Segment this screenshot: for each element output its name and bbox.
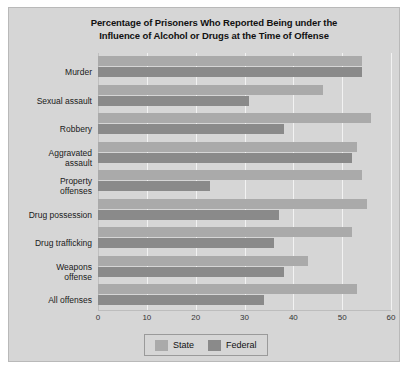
category-label: Drug possession — [6, 210, 92, 220]
category-label: Aggravated assault — [6, 148, 92, 168]
plot-area: MurderSexual assaultRobberyAggravated as… — [98, 53, 391, 310]
category-row: Murder — [98, 56, 391, 82]
category-row: Aggravated assault — [98, 142, 391, 168]
bar-federal — [98, 181, 210, 191]
bar-federal — [98, 210, 279, 220]
category-row: All offenses — [98, 284, 391, 310]
x-tick-label-20: 20 — [191, 313, 200, 322]
chart-title: Percentage of Prisoners Who Reported Bei… — [69, 16, 359, 42]
x-tick-label-40: 40 — [289, 313, 298, 322]
category-label: Murder — [6, 67, 92, 77]
category-row: Drug possession — [98, 199, 391, 225]
bar-state — [98, 170, 362, 180]
legend-entry-federal[interactable]: Federal — [208, 340, 257, 351]
chart-figure: Percentage of Prisoners Who Reported Bei… — [8, 7, 400, 362]
category-label: All offenses — [6, 295, 92, 305]
category-label: Robbery — [6, 124, 92, 134]
category-label: Property offenses — [6, 176, 92, 196]
chart-title-line-1: Percentage of Prisoners Who Reported Bei… — [69, 16, 359, 29]
category-row: Drug trafficking — [98, 227, 391, 253]
bar-federal — [98, 67, 362, 77]
legend-label: State — [173, 340, 194, 350]
bar-state — [98, 113, 371, 123]
category-row: Property offenses — [98, 170, 391, 196]
bar-federal — [98, 96, 249, 106]
x-tick-label-30: 30 — [240, 313, 249, 322]
bar-federal — [98, 238, 274, 248]
x-tick-label-50: 50 — [338, 313, 347, 322]
chart-title-line-2: Influence of Alcohol or Drugs at the Tim… — [69, 29, 359, 42]
x-axis-line — [98, 310, 391, 311]
category-row: Robbery — [98, 113, 391, 139]
category-label: Weapons offense — [6, 262, 92, 282]
bar-state — [98, 142, 357, 152]
bar-state — [98, 85, 323, 95]
chart-legend: StateFederal — [144, 334, 268, 356]
bar-state — [98, 256, 308, 266]
legend-label: Federal — [226, 340, 257, 350]
x-tick-label-0: 0 — [96, 313, 100, 322]
gridline-60 — [391, 53, 392, 310]
bar-state — [98, 199, 367, 209]
bar-federal — [98, 267, 284, 277]
x-tick-label-10: 10 — [142, 313, 151, 322]
bar-state — [98, 56, 362, 66]
legend-entry-state[interactable]: State — [155, 340, 194, 351]
category-label: Drug trafficking — [6, 238, 92, 248]
legend-swatch-federal — [208, 340, 221, 351]
x-tick-label-60: 60 — [387, 313, 396, 322]
category-label: Sexual assault — [6, 96, 92, 106]
bar-federal — [98, 124, 284, 134]
category-row: Weapons offense — [98, 256, 391, 282]
bar-state — [98, 284, 357, 294]
legend-swatch-state — [155, 340, 168, 351]
bar-state — [98, 227, 352, 237]
category-row: Sexual assault — [98, 85, 391, 111]
bar-federal — [98, 153, 352, 163]
bar-federal — [98, 295, 264, 305]
